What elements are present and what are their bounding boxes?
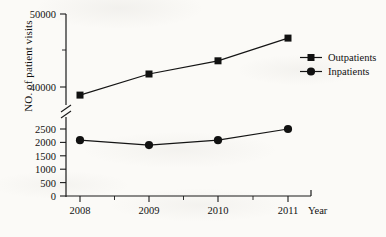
legend-item-inpatients: Inpatients: [300, 66, 369, 77]
y-label-40000: 40000: [30, 82, 56, 93]
chart-legend: Outpatients Inpatients: [300, 52, 376, 77]
x-label-2010: 2010: [208, 205, 229, 216]
inpatients-point-2008: [76, 136, 84, 144]
x-label-2011: 2011: [278, 205, 299, 216]
x-label-2009: 2009: [139, 205, 160, 216]
outpatients-point-2008: [77, 92, 84, 99]
chart-figure: NO. of patient visits 50000 40000 2500 2…: [0, 0, 386, 237]
series-inpatients: [76, 125, 292, 149]
y-label-1500: 1500: [35, 151, 56, 162]
y-label-50000: 50000: [30, 9, 56, 20]
legend-marker-square-icon: [308, 54, 315, 61]
legend-label-outpatients: Outpatients: [328, 52, 376, 63]
x-axis-title: Year: [308, 205, 328, 216]
legend-item-outpatients: Outpatients: [300, 52, 376, 63]
y-label-0: 0: [51, 191, 56, 202]
legend-marker-circle-icon: [307, 67, 315, 75]
inpatients-line: [80, 129, 288, 145]
inpatients-point-2009: [145, 141, 153, 149]
y-label-500: 500: [40, 178, 56, 189]
outpatients-point-2011: [285, 35, 292, 42]
x-label-2008: 2008: [70, 205, 91, 216]
y-label-2500: 2500: [35, 124, 56, 135]
inpatients-point-2011: [284, 125, 292, 133]
outpatients-point-2010: [215, 57, 222, 64]
y-label-1000: 1000: [35, 164, 56, 175]
outpatients-line: [80, 38, 288, 95]
y-label-2000: 2000: [35, 137, 56, 148]
series-outpatients: [77, 35, 292, 99]
outpatients-point-2009: [146, 71, 153, 78]
axis-break-icon: [61, 105, 71, 118]
chart-plot-area: 50000 40000 2500 2000 1500 1000 500 0 20…: [0, 0, 386, 237]
inpatients-point-2010: [214, 136, 222, 144]
legend-label-inpatients: Inpatients: [328, 66, 369, 77]
